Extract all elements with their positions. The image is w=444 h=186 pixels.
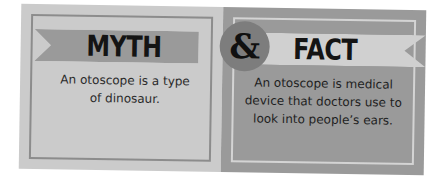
myth-fact-card: MYTH An otoscope is a type of dinosaur. …: [19, 4, 427, 175]
ampersand-icon: &: [229, 26, 260, 66]
fact-heading: FACT: [293, 32, 357, 67]
myth-statement: An otoscope is a type of dinosaur.: [20, 70, 223, 109]
myth-fact-infographic: MYTH An otoscope is a type of dinosaur. …: [0, 0, 444, 186]
myth-ribbon-banner: MYTH: [34, 29, 198, 64]
fact-statement: An otoscope is medical device that docto…: [221, 73, 425, 130]
myth-heading: MYTH: [86, 29, 162, 64]
myth-panel: MYTH An otoscope is a type of dinosaur.: [19, 4, 224, 172]
fact-ribbon-banner: FACT: [249, 32, 426, 67]
